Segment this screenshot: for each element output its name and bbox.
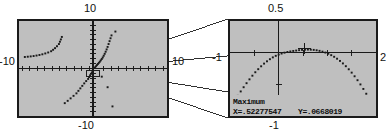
left-screen-right-label: 10 [172, 56, 184, 67]
right-calculator-screen[interactable]: Maximum X=.52277547 Y=.0668019 [228, 19, 378, 118]
maximum-readout-x: X=.52277547 [233, 108, 281, 116]
left-curve-upper-left [24, 36, 63, 58]
left-calculator-screen[interactable] [17, 19, 169, 118]
left-screen-plot [19, 21, 167, 116]
right-screen-left-label: -1 [212, 52, 222, 63]
maximum-readout-title: Maximum [233, 98, 265, 106]
maximum-readout-y: Y=.0668019 [298, 108, 342, 116]
right-screen-right-label: 2 [380, 52, 386, 63]
left-screen-bottom-label: -10 [78, 120, 94, 131]
right-screen-bottom-label: -1 [269, 120, 279, 131]
left-curve-upper-right [94, 34, 113, 68]
right-screen-top-label: 0.5 [268, 3, 283, 14]
left-screen-left-label: -10 [0, 56, 15, 67]
left-screen-top-label: 10 [84, 3, 96, 14]
